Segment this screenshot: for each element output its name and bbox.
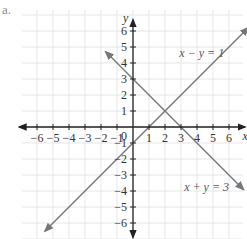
- y-tick-label: 4: [121, 56, 127, 70]
- axis-labels: −6−5−4−3−2−1123456654321−1−2−3−4−5−60xyx…: [31, 11, 247, 230]
- y-tick-label: 3: [121, 72, 127, 86]
- x-tick-label: −3: [79, 131, 92, 145]
- coordinate-plane: −6−5−4−3−2−1123456654321−1−2−3−4−5−60xyx…: [0, 0, 247, 239]
- x-tick-label: 6: [226, 131, 232, 145]
- y-tick-label: −3: [114, 168, 127, 182]
- y-tick-label: 1: [121, 104, 127, 118]
- y-tick-label: −5: [114, 200, 127, 214]
- x-tick-label: 5: [210, 131, 216, 145]
- x-axis-label: x: [242, 129, 247, 143]
- x-tick-label: 1: [146, 131, 152, 145]
- x-tick-label: −4: [63, 131, 76, 145]
- x-tick-label: −6: [31, 131, 44, 145]
- equation-label: x + y = 3: [183, 180, 229, 194]
- y-tick-label: −4: [114, 184, 127, 198]
- y-tick-label: −6: [114, 216, 127, 230]
- y-tick-label: 6: [121, 24, 127, 38]
- x-tick-label: 2: [162, 131, 168, 145]
- y-axis-label: y: [122, 11, 129, 25]
- y-tick-label: 2: [121, 88, 127, 102]
- x-tick-label: −2: [95, 131, 108, 145]
- x-tick-label: −5: [47, 131, 60, 145]
- y-tick-label: 5: [121, 40, 127, 54]
- x-tick-label: 3: [178, 131, 184, 145]
- y-tick-label: −2: [114, 152, 127, 166]
- origin-label: 0: [121, 129, 127, 143]
- x-tick-label: 4: [194, 131, 200, 145]
- equation-label: x − y = 1: [178, 46, 224, 60]
